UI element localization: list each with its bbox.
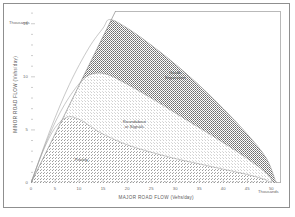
- x-tick-label: 20: [125, 187, 130, 191]
- y-axis-multiplier-label: Thousands: [9, 21, 30, 25]
- x-tick-label: 35: [197, 187, 202, 191]
- y-axis-title-unit: (Vehs/day): [13, 56, 18, 81]
- x-tick-label: 5: [54, 187, 56, 191]
- x-axis-multiplier-label: Thousands: [258, 190, 279, 194]
- x-axis-title-unit: (Vehs/day): [171, 195, 194, 200]
- y-tick-label: 0: [14, 181, 28, 185]
- x-tick-label: 25: [149, 187, 154, 191]
- region-label-grade-separation: GradeSeparation: [165, 69, 186, 80]
- x-tick-label: 30: [173, 187, 178, 191]
- x-tick-label: 45: [245, 187, 250, 191]
- x-tick-label: 0: [30, 187, 32, 191]
- x-tick-label: 40: [221, 187, 226, 191]
- y-axis-title: MINOR ROAD FLOW (Vehs/day): [14, 34, 19, 154]
- x-axis-title: MAJOR ROAD FLOW (Vehs/day): [31, 196, 281, 201]
- region-label-roundabout-or-signals: Roundaboutor Signals: [123, 118, 146, 129]
- x-tick-label: 15: [101, 187, 106, 191]
- junction-type-chart: [31, 11, 281, 183]
- region-label-priority: Priority: [75, 157, 88, 162]
- x-axis-title-text: MAJOR ROAD FLOW: [118, 195, 168, 200]
- region-label-line2: or Signals: [123, 124, 146, 129]
- y-axis-title-text: MINOR ROAD FLOW: [13, 83, 18, 133]
- region-label-line1: Priority: [75, 157, 88, 162]
- chart-page: 05101520253035404550051015 Thousands Tho…: [0, 0, 295, 217]
- x-tick-label: 10: [77, 187, 82, 191]
- regions-group: [31, 11, 276, 183]
- region-label-line2: Separation: [165, 75, 186, 80]
